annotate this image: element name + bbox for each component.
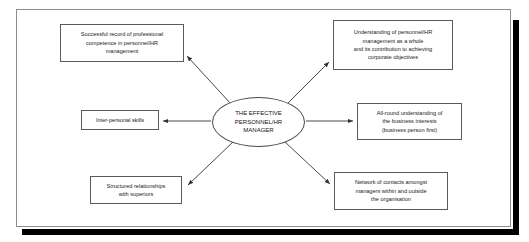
node-label-structured: Structured relationships with superiors [107,182,166,199]
node-label-allround: All-round understanding of the business … [377,109,443,134]
node-box-understanding: Understanding of personnel/HR management… [333,20,453,70]
node-box-success: Successful record of professional compet… [60,24,184,62]
frame-shadow-right [513,20,519,235]
center-node-ellipse: THE EFFECTIVE PERSONNEL/HR MANAGER [212,97,305,147]
node-box-interpersonal: Inter-personal skills [81,110,159,130]
diagram-figure: Successful record of professional compet… [0,0,529,242]
node-label-interpersonal: Inter-personal skills [96,116,144,124]
node-box-network: Network of contacts amongst managers wit… [334,172,448,210]
node-label-understanding: Understanding of personnel/HR management… [354,28,432,62]
frame-shadow-bottom [22,229,519,235]
node-box-allround: All-round understanding of the business … [357,103,462,140]
node-label-network: Network of contacts amongst managers wit… [355,178,427,203]
node-box-structured: Structured relationships with superiors [90,176,182,204]
node-label-success: Successful record of professional compet… [81,30,163,55]
center-node-label: THE EFFECTIVE PERSONNEL/HR MANAGER [235,109,282,135]
